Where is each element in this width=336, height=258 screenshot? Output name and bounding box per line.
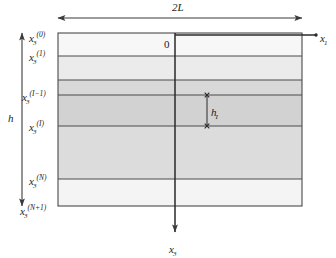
band-4 [58, 126, 302, 179]
layer-thickness-label: hI [211, 103, 219, 119]
origin-label: 0 [164, 39, 170, 50]
layer-bands [58, 33, 302, 206]
height-label: h [8, 113, 14, 124]
interface-label-top: x3(0) [29, 29, 46, 45]
x3-axis-label: x3 [169, 240, 177, 256]
interface-label-n: x3(N) [29, 172, 47, 188]
layered-plate-diagram: 2L h 0 x1 x3 hI x3(0) x3(1) x3(I−1) x3(I… [0, 0, 336, 258]
band-2 [58, 80, 302, 95]
interface-label-n-plus-1: x3(N+1) [20, 202, 47, 218]
interface-label-i-minus-1: x3(I−1) [22, 88, 47, 104]
x1-axis-label: x1 [320, 29, 328, 45]
width-label: 2L [172, 2, 184, 13]
band-0 [58, 33, 302, 56]
interface-label-i: x3(I) [29, 118, 45, 134]
band-3 [58, 95, 302, 126]
band-1 [58, 56, 302, 80]
interface-label-first: x3(1) [29, 48, 46, 64]
band-5 [58, 179, 302, 206]
